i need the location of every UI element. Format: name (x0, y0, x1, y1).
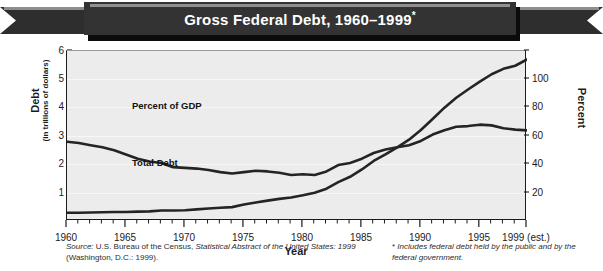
chart-title-asterisk: * (412, 10, 416, 21)
series-lines (67, 51, 527, 221)
source-note-title: Statistical Abstract of the United State… (195, 242, 355, 251)
y-axis-right: 100 80 60 40 20 (532, 42, 558, 228)
y-right-tick-100: 100 (532, 73, 549, 84)
footnote: * Includes federal debt held by the publ… (392, 242, 592, 264)
y-right-tick-60: 60 (532, 130, 543, 141)
title-banner: Gross Federal Debt, 1960–1999* (0, 0, 603, 42)
chart-area: 6 5 4 3 2 1 Debt (in trillions of dollar… (0, 42, 603, 271)
line-total-debt (67, 60, 527, 213)
y-right-tick-40: 40 (532, 158, 543, 169)
y-axis-right-title: Percent (576, 68, 588, 148)
source-note-text: U.S. Bureau of the Census, (94, 242, 196, 251)
series-label-total-debt: Total Debt (132, 157, 178, 168)
y-right-tick-80: 80 (532, 101, 543, 112)
y-right-tick-20: 20 (532, 187, 543, 198)
source-note-prefix: Source: (66, 242, 94, 251)
footnote-text: Includes federal debt held by the public… (392, 242, 576, 262)
y-axis-left-title-main: Debt (29, 46, 41, 156)
source-note: Source: U.S. Bureau of the Census, Stati… (66, 242, 366, 264)
plot-region: Percent of GDP Total Debt (66, 50, 526, 220)
chart-title-text: Gross Federal Debt, 1960–1999 (184, 11, 412, 28)
banner-center-highlight (90, 4, 510, 7)
series-label-percent-of-gdp: Percent of GDP (132, 100, 202, 111)
y-axis-left-title-sub: (in trillions of dollars) (41, 46, 50, 156)
source-note-suffix: (Washington, D.C.: 1999). (66, 253, 158, 262)
chart-title: Gross Federal Debt, 1960–1999* (184, 10, 416, 28)
y-axis-left-title: Debt (in trillions of dollars) (29, 46, 50, 156)
